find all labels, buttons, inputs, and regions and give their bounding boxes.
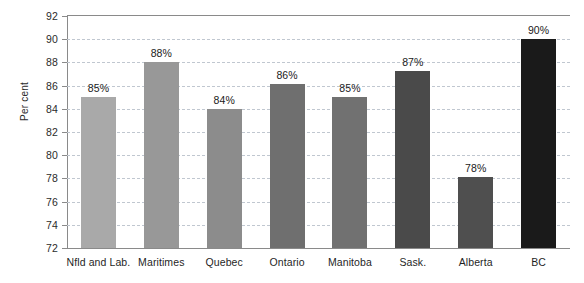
y-axis-tick-mark [62, 248, 67, 249]
x-axis-category-label: Sask. [399, 256, 426, 268]
x-axis-category-label: BC [531, 256, 546, 268]
y-axis-tick-label: 72 [46, 242, 58, 254]
y-axis-tick-label: 92 [46, 10, 58, 22]
gridline [67, 178, 570, 179]
bar [144, 62, 179, 248]
bar [332, 97, 367, 248]
bar-value-label: 85% [339, 82, 360, 94]
y-axis-tick-labels: 7274767880828486889092 [0, 0, 58, 283]
bar-value-label: 85% [88, 82, 109, 94]
x-axis-category-label: Alberta [459, 256, 493, 268]
bar-value-label: 87% [402, 56, 423, 68]
y-axis-tick-label: 74 [46, 219, 58, 231]
bar [207, 109, 242, 248]
gridline [67, 86, 570, 87]
x-axis-category-label: Nfld and Lab. [67, 256, 131, 268]
gridline [67, 109, 570, 110]
bar [521, 39, 556, 248]
y-axis-tick-label: 86 [46, 80, 58, 92]
bar-value-label: 90% [528, 24, 549, 36]
gridline [67, 39, 570, 40]
y-axis-tick-label: 78 [46, 172, 58, 184]
gridline [67, 155, 570, 156]
x-axis-baseline [67, 248, 570, 249]
plot-area: 85%88%84%86%85%87%78%90% [67, 16, 570, 248]
x-axis-category-label: Manitoba [328, 256, 372, 268]
gridline [67, 62, 570, 63]
bar-value-label: 78% [465, 162, 486, 174]
gridline [67, 202, 570, 203]
y-axis-tick-label: 84 [46, 103, 58, 115]
bar-chart: Per cent 7274767880828486889092 85%88%84… [0, 0, 584, 283]
y-axis-tick-label: 90 [46, 33, 58, 45]
x-axis-category-label: Ontario [269, 256, 304, 268]
bar-value-label: 86% [276, 69, 297, 81]
bar [270, 84, 305, 248]
y-axis-tick-label: 82 [46, 126, 58, 138]
bar [81, 97, 116, 248]
x-axis-category-label: Maritimes [138, 256, 184, 268]
gridline [67, 132, 570, 133]
bar-value-label: 84% [214, 94, 235, 106]
y-axis-tick-label: 88 [46, 56, 58, 68]
bar [395, 71, 430, 248]
y-axis-tick-label: 76 [46, 196, 58, 208]
bar [458, 177, 493, 248]
y-axis-tick-label: 80 [46, 149, 58, 161]
bar-value-label: 88% [151, 47, 172, 59]
x-axis-category-label: Quebec [205, 256, 242, 268]
gridline [67, 225, 570, 226]
